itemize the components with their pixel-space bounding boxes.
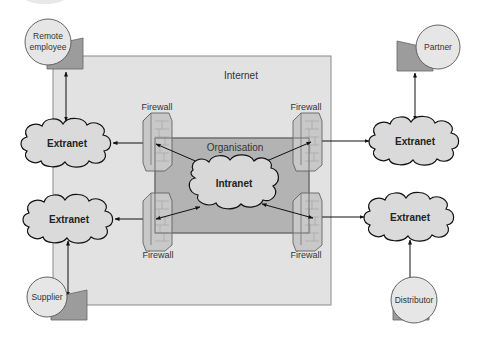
remote-employee-label-line2: employee	[30, 42, 67, 52]
extranet-label: Extranet	[49, 214, 90, 225]
extranet-label: Extranet	[390, 212, 431, 223]
extranet-label: Extranet	[395, 136, 436, 147]
network-diagram: Internet Organisation	[0, 0, 478, 339]
firewall-top-left-label: Firewall	[141, 102, 172, 112]
firewall-bottom-right-label: Firewall	[290, 250, 321, 260]
extranet-top-left: Extranet	[21, 118, 111, 167]
firewall-bottom-right	[293, 193, 322, 251]
organisation-label: Organisation	[207, 142, 264, 153]
supplier-label: Supplier	[31, 292, 62, 302]
cropped-shape	[23, 0, 67, 4]
intranet-cloud: Intranet	[189, 155, 278, 209]
partner-node: Partner	[397, 25, 460, 71]
distributor-node: Distributor	[391, 277, 437, 323]
intranet-label: Intranet	[216, 178, 253, 189]
firewall-bottom-left	[143, 193, 172, 251]
internet-label: Internet	[224, 70, 258, 81]
remote-employee-label-line1: Remote	[33, 31, 63, 41]
extranet-top-right: Extranet	[369, 116, 459, 165]
extranet-bottom-right: Extranet	[364, 192, 454, 241]
firewall-top-right-label: Firewall	[290, 102, 321, 112]
firewall-bottom-left-label: Firewall	[142, 250, 173, 260]
distributor-label: Distributor	[395, 295, 434, 305]
partner-label: Partner	[424, 42, 452, 52]
firewall-top-left	[143, 113, 172, 171]
extranet-bottom-left: Extranet	[23, 194, 113, 243]
firewall-top-right	[293, 113, 322, 171]
extranet-label: Extranet	[47, 138, 88, 149]
remote-employee-node: Remote employee	[25, 19, 83, 69]
